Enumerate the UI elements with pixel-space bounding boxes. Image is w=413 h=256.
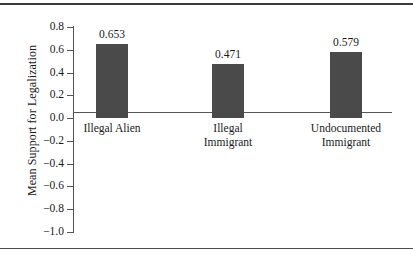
x-axis-category-label: Illegal Alien: [57, 121, 167, 135]
x-axis-category-label-line: Illegal: [173, 121, 283, 135]
y-axis-tick-label-wrap: −0.8: [0, 203, 64, 215]
y-axis-tick-label: −0.6: [10, 180, 64, 192]
x-axis-category-label-line: Immigrant: [173, 135, 283, 149]
y-axis-tick-label: 0.2: [10, 89, 64, 101]
bar: [212, 64, 244, 118]
y-axis-tick: [67, 232, 73, 233]
y-axis-tick-label: −0.4: [10, 158, 64, 170]
y-axis-tick-label: −0.8: [10, 203, 64, 215]
y-axis-tick-label-wrap: 0.6: [0, 44, 64, 56]
bar-value-label: 0.579: [311, 36, 381, 48]
y-axis-tick-label-wrap: 0.0: [0, 112, 64, 124]
x-axis-category-label: UndocumentedImmigrant: [291, 121, 401, 149]
y-axis-tick-label-wrap: 0.2: [0, 89, 64, 101]
chart-figure: Mean Support for Legalization 0.80.60.40…: [0, 0, 413, 256]
bar: [96, 44, 128, 118]
y-axis-tick-label-wrap: 0.4: [0, 67, 64, 79]
y-axis-tick-label-wrap: 0.8: [0, 21, 64, 33]
y-axis-tick-label: 0.0: [10, 112, 64, 124]
x-axis-category-label-line: Immigrant: [291, 135, 401, 149]
y-axis-tick-label-wrap: −1.0: [0, 226, 64, 238]
y-axis-tick-label-wrap: −0.4: [0, 158, 64, 170]
y-axis-tick-label: −1.0: [10, 226, 64, 238]
y-axis-tick-label: 0.4: [10, 67, 64, 79]
x-axis-category-label-line: Undocumented: [291, 121, 401, 135]
y-axis-tick-label: −0.2: [10, 135, 64, 147]
x-axis-category-label-line: Illegal Alien: [57, 121, 167, 135]
bar: [330, 52, 362, 118]
top-rule: [0, 3, 413, 5]
bar-value-label: 0.653: [77, 28, 147, 40]
bar-value-label: 0.471: [193, 48, 263, 60]
x-axis-category-label: IllegalImmigrant: [173, 121, 283, 149]
y-axis-tick-label: 0.6: [10, 44, 64, 56]
y-axis-tick-label-wrap: −0.6: [0, 180, 64, 192]
bottom-rule: [0, 248, 413, 249]
y-axis-tick-label-wrap: −0.2: [0, 135, 64, 147]
y-axis-tick-label: 0.8: [10, 21, 64, 33]
